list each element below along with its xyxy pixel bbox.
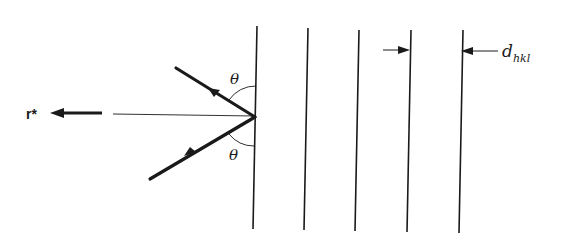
reciprocal-vector-label: r* — [26, 106, 37, 122]
lattice-plane-4 — [407, 30, 411, 232]
reflected-ray — [176, 68, 255, 117]
reciprocal-vector-arrow — [50, 108, 102, 118]
theta-label-upper: θ — [230, 70, 239, 88]
lattice-plane-5 — [459, 30, 463, 233]
angle-arc-upper — [229, 86, 256, 100]
incident-ray — [150, 117, 255, 179]
spacing-label: dhkl — [502, 41, 531, 65]
lattice-plane-3 — [355, 30, 359, 231]
plane-normal-line — [113, 114, 255, 116]
lattice-planes — [253, 26, 463, 233]
spacing-arrow-right — [461, 47, 498, 55]
lattice-plane-1 — [253, 26, 257, 229]
bragg-diagram: r* θ θ dhkl — [0, 0, 561, 242]
angle-arc-lower — [229, 134, 254, 146]
theta-label-lower: θ — [229, 146, 238, 164]
lattice-plane-2 — [304, 28, 308, 230]
spacing-arrow-left — [383, 46, 410, 54]
